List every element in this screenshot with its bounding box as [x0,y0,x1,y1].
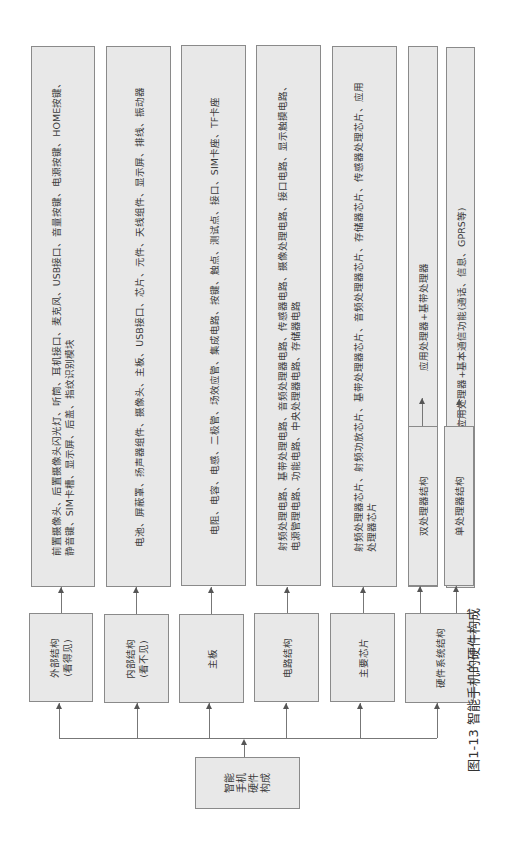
label-line: (看不见) [137,639,150,679]
arrow-icon [208,587,214,593]
figure-caption: 图1-13 智能手机的硬件构成 [463,608,482,772]
category-box-internal: 内部结构 (看不见) [104,614,169,703]
arrow-icon [417,586,423,592]
arrow-icon [419,398,425,404]
detail-text-chips: 射频处理器芯片、射频功放芯片、基带处理器芯片、音频处理器芯片、存储器芯片、传感器… [352,82,378,552]
category-label-mainboard: 主板 [205,649,218,669]
category-box-external: 外部结构 (看得见) [29,613,93,702]
detail-box-external: 前置摄像头、后置摄像头闪光灯、听筒、耳机接口、麦克风、USB接口、音量按键、电源… [31,46,95,587]
dual-processor-box: 双处理器结构 [408,426,438,586]
arrow-icon [357,703,363,709]
detail-line: 静音键、SIM卡槽、显示屏、后盖、指纹识别模块 [63,77,76,555]
category-label-circuit: 电路结构 [280,638,293,678]
detail-line: 处理器芯片 [365,82,378,552]
detail-box-mainboard: 电阻、电容、电感、二极管、场效应管、集成电路、按键、触点、测试点、接口、SIM卡… [181,45,246,586]
arrow-icon [134,703,140,709]
single-processor-box: 单处理器结构 [444,426,474,586]
category-box-chips: 主要芯片 [330,613,395,702]
detail-line: 射频处理电路、基带处理电路、音频处理器电路、传感器电路、摄像处理电路、接口电路、… [276,81,289,551]
category-box-mainboard: 主板 [179,614,244,703]
arrow-icon [284,587,290,593]
detail-box-internal: 电池、屏蔽罩、扬声器组件、摄像头、主板、USB接口、芯片、元件、天线组件、显示屏… [106,46,171,587]
detail-text-internal: 电池、屏蔽罩、扬声器组件、摄像头、主板、USB接口、芯片、元件、天线组件、显示屏… [132,87,145,547]
detail-box-circuit: 射频处理电路、基带处理电路、音频处理器电路、传感器电路、摄像处理电路、接口电路、… [256,45,321,586]
root-line: 智能 [224,773,235,793]
root-box: 智能 手机 硬件 构成 [195,757,300,809]
single-processor-detail: 应用处理器+基本通信功能(通话、信息、GPRS等) [454,207,467,428]
arrow-icon [360,587,366,593]
label-line: 外部结构 [48,638,61,678]
label-line: 内部结构 [124,639,137,679]
arrow-icon [56,703,62,709]
dual-processor-detail: 应用处理器+基带处理器 [417,263,430,371]
detail-line: 电池、屏蔽罩、扬声器组件、摄像头、主板、USB接口、芯片、元件、天线组件、显示屏… [132,87,145,547]
arrow-icon [241,739,247,745]
arrow-icon [206,703,212,709]
category-label-external: 外部结构 (看得见) [48,638,74,678]
arrow-icon [133,587,139,593]
category-label-hardware-system: 硬件系统结构 [433,628,446,688]
arrow-icon [456,399,462,405]
detail-line: 电源管理电路、功能电路、中央处理器电路、存储器电路 [289,81,302,551]
arrow-icon [434,703,440,709]
root-label: 智能 手机 硬件 构成 [224,773,272,793]
arrow-icon [58,587,64,593]
category-label-internal: 内部结构 (看不见) [124,639,150,679]
single-processor-label: 单处理器结构 [453,476,466,536]
dual-processor-label: 双处理器结构 [417,476,430,536]
label-line: (看得见) [61,638,74,678]
category-label-chips: 主要芯片 [356,638,369,678]
root-line: 手机 [236,773,247,793]
connector-bus [59,738,437,739]
detail-box-chips: 射频处理器芯片、射频功放芯片、基带处理器芯片、音频处理器芯片、存储器芯片、传感器… [332,46,397,587]
detail-text-mainboard: 电阻、电容、电感、二极管、场效应管、集成电路、按键、触点、测试点、接口、SIM卡… [207,96,220,534]
detail-line: 前置摄像头、后置摄像头闪光灯、听筒、耳机接口、麦克风、USB接口、音量按键、电源… [50,77,63,555]
arrow-icon [283,703,289,709]
root-line: 构成 [260,773,271,793]
detail-text-circuit: 射频处理电路、基带处理电路、音频处理器电路、传感器电路、摄像处理电路、接口电路、… [276,81,302,551]
category-box-circuit: 电路结构 [254,613,319,702]
detail-line: 射频处理器芯片、射频功放芯片、基带处理器芯片、音频处理器芯片、存储器芯片、传感器… [352,82,365,552]
root-line: 硬件 [248,773,259,793]
detail-line: 电阻、电容、电感、二极管、场效应管、集成电路、按键、触点、测试点、接口、SIM卡… [207,96,220,534]
arrow-icon [453,586,459,592]
detail-text-external: 前置摄像头、后置摄像头闪光灯、听筒、耳机接口、麦克风、USB接口、音量按键、电源… [50,77,76,555]
